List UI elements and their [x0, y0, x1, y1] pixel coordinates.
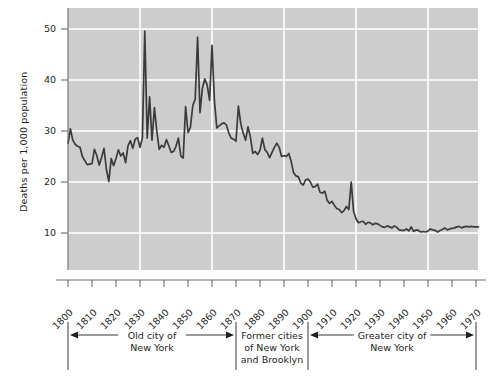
bracket-former-cities: Former citiesof New Yorkand Brooklyn: [241, 330, 304, 365]
bracket-label-former-cities-line1: Former cities: [241, 330, 303, 341]
figure-root: 1020304050 18001810182018301840185018601…: [0, 0, 499, 380]
bracket-label-old-city-line2: New York: [130, 342, 174, 353]
death-rate-line-chart: 1020304050 18001810182018301840185018601…: [0, 0, 499, 380]
bracket-label-former-cities-line3: and Brooklyn: [241, 354, 304, 365]
bracket-label-greater-city-line2: New York: [370, 342, 414, 353]
y-tick-label-40: 40: [44, 74, 56, 85]
y-tick-label-20: 20: [44, 176, 56, 187]
y-tick-label-10: 10: [44, 227, 56, 238]
bracket-label-old-city-line1: Old city of: [128, 330, 177, 341]
y-axis-title: Deaths per 1,000 population: [18, 72, 29, 212]
bracket-label-former-cities-line2: of New York: [244, 342, 300, 353]
y-tick-label-30: 30: [44, 125, 56, 136]
y-tick-label-50: 50: [44, 23, 56, 34]
bracket-label-greater-city-line1: Greater city of: [358, 330, 427, 341]
